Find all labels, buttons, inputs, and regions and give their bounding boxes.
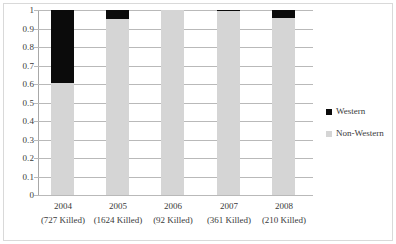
bar-group[interactable] [161,10,184,195]
x-axis-killed-count: (210 Killed) [247,213,321,227]
y-axis-tick [34,158,38,159]
y-axis-tick [34,103,38,104]
legend-swatch-icon [326,109,332,115]
y-axis-tick-labels: 10.90.80.70.60.50.40.30.20.10 [0,10,34,196]
legend-item[interactable]: Western [326,104,394,119]
legend-item[interactable]: Non-Western [326,126,394,141]
y-axis-tick-label: 0.6 [2,80,34,89]
y-axis-tick-label: 1 [2,6,34,15]
y-axis-tick-label: 0.9 [2,25,34,34]
chart-figure: 10.90.80.70.60.50.40.30.20.10 2004(727 K… [0,0,396,244]
bar-segment-non-western[interactable] [51,83,74,195]
bar-segment-western[interactable] [217,10,240,12]
legend-swatch-icon [326,131,332,137]
legend-label: Western [336,107,365,116]
bar-group[interactable] [217,10,240,195]
y-axis-tick [34,84,38,85]
y-axis-tick [34,195,38,196]
bar-segment-western[interactable] [272,10,295,18]
y-axis-tick-label: 0.3 [2,136,34,145]
y-axis-tick-label: 0.4 [2,117,34,126]
x-axis-tick-label: 2008(210 Killed) [247,199,321,227]
y-axis-tick [34,140,38,141]
y-axis-tick-label: 0.5 [2,99,34,108]
bar-group[interactable] [106,10,129,195]
y-axis-tick [34,47,38,48]
y-axis-tick [34,10,38,11]
y-axis-tick [34,66,38,67]
x-axis-tick-labels: 2004(727 Killed)2005(1624 Killed)2006(92… [18,199,338,235]
gridline [38,195,313,196]
y-axis-tick [34,177,38,178]
plot-area [38,10,313,195]
bar-segment-non-western[interactable] [217,11,240,195]
y-axis-tick-label: 0.2 [2,154,34,163]
bar-segment-western[interactable] [106,10,129,19]
legend-label: Non-Western [336,129,384,138]
y-axis-tick [34,29,38,30]
y-axis-tick-label: 0.8 [2,43,34,52]
bar-segment-non-western[interactable] [106,19,129,195]
y-axis-tick-label: 0.7 [2,62,34,71]
bar-group[interactable] [272,10,295,195]
bar-segment-non-western[interactable] [272,18,295,195]
bar-segment-western[interactable] [51,10,74,83]
x-axis-year: 2008 [247,199,321,213]
bar-segment-non-western[interactable] [161,10,184,195]
bar-group[interactable] [51,10,74,195]
y-axis-tick [34,121,38,122]
chart-legend: WesternNon-Western [326,104,394,148]
y-axis-tick-label: 0.1 [2,173,34,182]
